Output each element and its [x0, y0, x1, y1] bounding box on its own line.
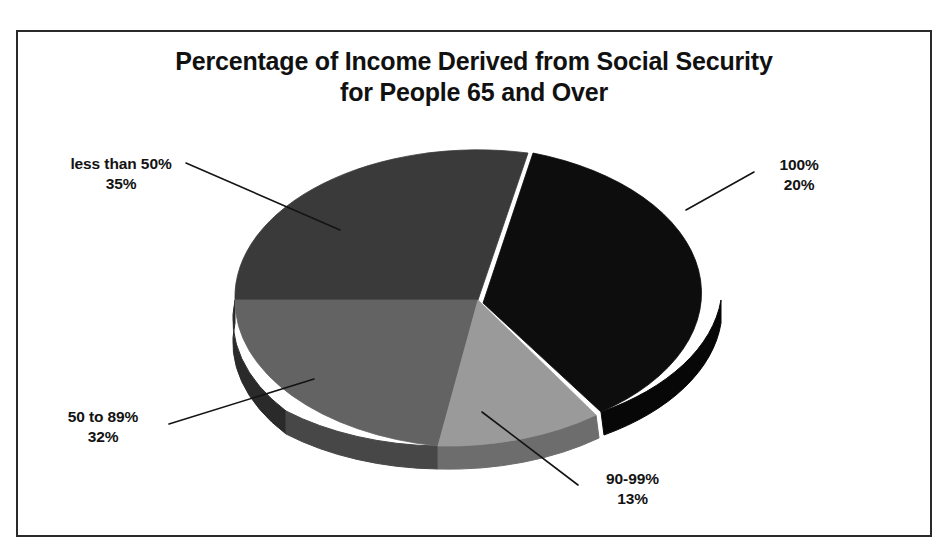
leader-line-100	[686, 172, 754, 210]
callout-less-than-50-name: less than 50%	[46, 154, 196, 174]
callout-90-99-name: 90-99%	[580, 469, 685, 489]
slice-top-50-to-89	[235, 300, 478, 446]
chart-frame: Percentage of Income Derived from Social…	[16, 30, 932, 537]
callout-90-99: 90-99% 13%	[580, 469, 685, 509]
callout-100: 100% 20%	[756, 155, 842, 195]
callout-100-name: 100%	[756, 155, 842, 175]
callout-90-99-value: 13%	[580, 489, 685, 509]
callout-less-than-50-value: 35%	[46, 174, 196, 194]
callout-less-than-50: less than 50% 35%	[46, 154, 196, 194]
callout-50-to-89-name: 50 to 89%	[38, 407, 168, 427]
callout-50-to-89: 50 to 89% 32%	[38, 407, 168, 447]
callout-50-to-89-value: 32%	[38, 427, 168, 447]
callout-100-value: 20%	[756, 175, 842, 195]
pie-chart-graphic	[18, 32, 930, 535]
chart-page: Percentage of Income Derived from Social…	[0, 0, 950, 558]
slice-top-less-than-50	[235, 150, 528, 300]
